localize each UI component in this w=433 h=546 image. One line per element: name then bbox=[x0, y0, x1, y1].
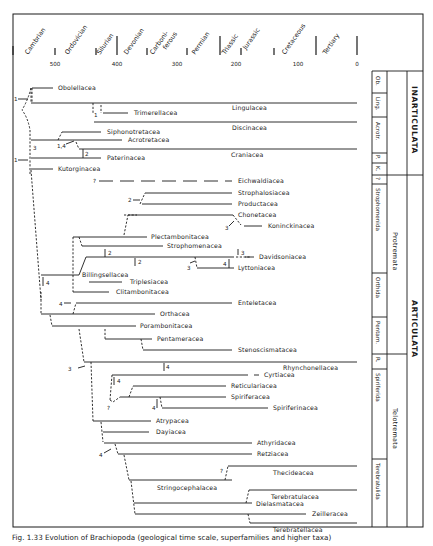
period-devonian: Devonian bbox=[122, 27, 146, 56]
taxon-strophalosiacea: Strophalosiacea bbox=[238, 189, 290, 197]
time-axis: 500 400 300 200 100 0 Cambrian Ordovicia… bbox=[13, 21, 359, 67]
taxon-dayiacea: Dayiacea bbox=[156, 428, 186, 436]
annotation-4: 4 bbox=[152, 405, 156, 411]
taxon-koninckinacea: Koninckinacea bbox=[268, 222, 315, 229]
figure-caption: Fig. 1.33 Evolution of Brachiopoda (geol… bbox=[12, 533, 331, 542]
taxon-terebratellacea: Terebratellacea bbox=[272, 526, 323, 533]
taxon-plectambonitacea: Plectambonitacea bbox=[151, 233, 209, 240]
taxon-obolellacea: Obolellacea bbox=[58, 84, 96, 91]
order-unknown: ? bbox=[375, 177, 381, 180]
lineages bbox=[22, 88, 357, 523]
tick-label-0: 0 bbox=[355, 61, 359, 67]
taxon-eichwaldiacea: Eichwaldiacea bbox=[238, 177, 284, 184]
annotation-3: 3 bbox=[33, 145, 37, 151]
brachiopod-phylogeny-diagram: 500 400 300 200 100 0 Cambrian Ordovicia… bbox=[0, 0, 433, 546]
annotations: 1 1 1 3 1,4 2 ? 2 3 2 2 3 3 4 4 4 3 4 4 … bbox=[14, 96, 245, 474]
subclass-protremata: Protremata bbox=[391, 232, 399, 271]
annotation-1: 1 bbox=[14, 157, 18, 163]
taxon-trimerellacea: Trimerellacea bbox=[133, 109, 177, 116]
annotation-4: 4 bbox=[46, 280, 50, 286]
annotation-question: ? bbox=[220, 468, 223, 474]
order-pentam: Pentam. bbox=[375, 321, 381, 344]
annotation-4: 4 bbox=[117, 378, 121, 384]
period-silurian: Silurian bbox=[95, 32, 115, 56]
order-acrotr: Acrotr. bbox=[375, 122, 381, 140]
taxon-porambonitacea: Porambonitacea bbox=[140, 322, 192, 329]
taxon-thecideacea: Thecideacea bbox=[272, 469, 314, 476]
period-permian: Permian bbox=[190, 30, 211, 56]
taxon-athyridacea: Athyridacea bbox=[257, 439, 296, 447]
taxon-siphonotretacea: Siphonotretacea bbox=[107, 128, 160, 136]
taxon-dielasmatacea: Dielasmatacea bbox=[256, 500, 304, 507]
annotation-1-4: 1,4 bbox=[57, 143, 66, 149]
order-terebratulida: Terebratulida bbox=[375, 462, 381, 500]
annotation-4: 4 bbox=[99, 452, 103, 458]
taxon-triplesiacea: Triplesiacea bbox=[129, 278, 168, 286]
order-r: R. bbox=[375, 357, 381, 363]
period-cretaceous: Cretaceous bbox=[280, 21, 308, 56]
taxon-enteletacea: Enteletacea bbox=[238, 299, 277, 306]
tick-label-300: 300 bbox=[172, 61, 183, 67]
taxon-stenoscismatacea: Stenoscismatacea bbox=[238, 346, 297, 353]
taxon-stringocephalacea: Stringocephalacea bbox=[157, 484, 217, 492]
taxon-davidsoniacea: Davidsoniacea bbox=[259, 253, 306, 260]
order-p: P. bbox=[375, 155, 381, 160]
taxon-atrypacea: Atrypacea bbox=[156, 417, 189, 425]
taxon-chonetacea: Chonetacea bbox=[238, 211, 277, 218]
taxon-pentameracea: Pentameracea bbox=[157, 335, 203, 342]
taxon-paterinacea: Paterinacea bbox=[107, 154, 145, 161]
taxon-spiriferacea: Spiriferacea bbox=[231, 393, 270, 401]
tick-label-200: 200 bbox=[231, 61, 242, 67]
annotation-3: 3 bbox=[225, 225, 229, 231]
order-k: K. bbox=[375, 166, 381, 172]
annotation-question: ? bbox=[93, 178, 96, 184]
taxon-billingsellacea: Billingsellacea bbox=[82, 271, 129, 279]
annotation-1: 1 bbox=[94, 112, 98, 118]
annotation-1: 1 bbox=[14, 96, 18, 102]
annotation-2: 2 bbox=[128, 197, 132, 203]
taxon-lyttoniacea: Lyttoniacea bbox=[238, 264, 275, 272]
taxon-acrotretacea: Acrotretacea bbox=[128, 136, 169, 143]
class-articulata: ARTICULATA bbox=[410, 300, 419, 358]
order-spiriferida: Spiriferida bbox=[374, 373, 381, 402]
period-triassic: Triassic bbox=[220, 32, 241, 57]
taxon-discinacea: Discinacea bbox=[232, 124, 267, 131]
taxon-craniacea: Craniacea bbox=[231, 151, 263, 158]
annotation-3: 3 bbox=[68, 366, 72, 372]
taxon-clitambonitacea: Clitambonitacea bbox=[116, 288, 169, 295]
annotation-2: 2 bbox=[85, 151, 89, 157]
class-inarticulata: INARTICULATA bbox=[410, 86, 419, 154]
period-cambrian: Cambrian bbox=[23, 26, 47, 56]
taxon-kutorginacea: Kutorginacea bbox=[58, 165, 101, 173]
period-tertiary: Tertiary bbox=[321, 32, 342, 57]
order-orthida: Orthida bbox=[375, 277, 381, 298]
taxon-reticulariacea: Reticulariacea bbox=[231, 382, 277, 389]
annotation-question: ? bbox=[107, 405, 110, 411]
order-ob: Ob. bbox=[375, 76, 381, 86]
annotation-2: 2 bbox=[138, 259, 142, 265]
order-ling: Ling. bbox=[374, 97, 381, 111]
annotation-4: 4 bbox=[166, 364, 170, 370]
annotation-4: 4 bbox=[223, 261, 227, 267]
classification-columns: Ob. Ling. Acrotr. P. K. ? Strophomenida … bbox=[372, 71, 423, 527]
order-strophomenida: Strophomenida bbox=[374, 188, 381, 231]
annotation-4: 4 bbox=[59, 301, 63, 307]
tick-label-100: 100 bbox=[293, 61, 304, 67]
taxon-productacea: Productacea bbox=[238, 200, 278, 207]
taxon-cyrtiacea: Cyrtiacea bbox=[264, 371, 295, 379]
taxon-orthacea: Orthacea bbox=[160, 310, 190, 317]
period-jurassic: Jurassic bbox=[241, 26, 262, 52]
annotation-2: 2 bbox=[108, 250, 112, 256]
annotation-3: 3 bbox=[187, 265, 191, 271]
taxon-strophomenacea: Strophomenacea bbox=[167, 242, 222, 250]
period-ordovician: Ordovician bbox=[63, 23, 89, 56]
taxon-spiriferinacea: Spiriferinacea bbox=[273, 404, 318, 412]
taxon-zeilleracea: Zeilleracea bbox=[312, 510, 348, 517]
subclass-telotremata: Telotremata bbox=[391, 407, 399, 449]
taxon-lingulacea: Lingulacea bbox=[232, 104, 267, 112]
tick-label-500: 500 bbox=[50, 61, 61, 67]
tick-label-400: 400 bbox=[112, 61, 123, 67]
taxon-retziacea: Retziacea bbox=[257, 450, 288, 457]
taxon-terebratulacea: Terebratulacea bbox=[270, 493, 319, 500]
annotation-3: 3 bbox=[241, 250, 245, 256]
